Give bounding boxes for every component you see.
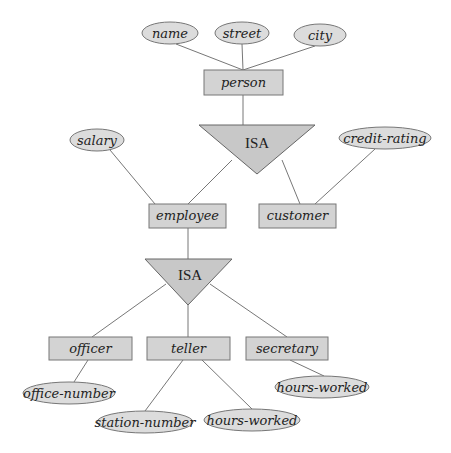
attribute-station-number-label: station-number [95,415,197,430]
attribute-city: city [294,24,346,46]
attribute-credit-rating-label: credit-rating [343,131,426,146]
entity-employee-label: employee [156,208,219,223]
attribute-office-number: office-number [23,382,116,404]
attribute-salary-label: salary [77,133,118,148]
isa-top-label: ISA [245,135,269,151]
attribute-name-label: name [152,26,188,41]
entity-secretary-label: secretary [256,341,319,356]
entity-teller-label: teller [171,341,207,356]
attribute-street: street [215,22,269,44]
entity-customer: customer [259,204,336,228]
attribute-station-number: station-number [95,411,197,433]
entity-person-label: person [221,75,266,90]
attribute-secretary-hours-worked: hours-worked [275,376,369,398]
entity-teller: teller [147,337,230,360]
isa-top: ISA [199,125,315,174]
er-diagram: name street city salary credit-rating of… [0,0,451,453]
attribute-teller-hours-worked: hours-worked [204,409,300,431]
isa-bottom: ISA [145,259,232,305]
attribute-teller-hours-worked-label: hours-worked [207,413,298,428]
attribute-secretary-hours-worked-label: hours-worked [277,380,368,395]
entity-officer: officer [49,337,132,360]
attribute-office-number-label: office-number [23,386,116,401]
isa-bottom-label: ISA [178,267,202,283]
entity-secretary: secretary [246,337,328,360]
entity-customer-label: customer [267,208,329,223]
entity-officer-label: officer [69,341,112,356]
attribute-street-label: street [223,26,262,41]
attribute-salary: salary [70,129,124,151]
attribute-name: name [142,22,198,44]
entity-employee: employee [149,204,226,228]
attribute-city-label: city [308,28,333,43]
entity-person: person [204,70,283,95]
attribute-credit-rating: credit-rating [339,127,431,149]
